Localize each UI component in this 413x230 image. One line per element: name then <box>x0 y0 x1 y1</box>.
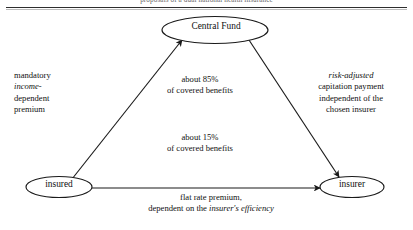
edge-label-about-15-percent: about 15% of covered benefits <box>120 132 280 155</box>
edge-label-about-85-percent: about 85% of covered benefits <box>120 74 280 97</box>
benefits-85-line-1: about 85% <box>120 74 280 85</box>
flat-rate-line-2-italic: insurer's efficiency <box>209 203 274 213</box>
premium-line-1: mandatory <box>14 70 106 81</box>
edge-label-risk-adjusted-capitation-payment: risk-adjusted capitation payment indepen… <box>292 70 410 116</box>
capitation-line-3: independent of the <box>292 93 410 104</box>
diagram-page: proposals of a dual national health insu… <box>0 0 413 230</box>
premium-line-4: premium <box>14 104 106 115</box>
capitation-line-2: capitation payment <box>292 81 410 92</box>
benefits-15-line-2: of covered benefits <box>120 143 280 154</box>
capitation-line-1: risk-adjusted <box>292 70 410 81</box>
flat-rate-line-2: dependent on the insurer's efficiency <box>100 203 322 214</box>
capitation-line-4: chosen insurer <box>292 104 410 115</box>
node-label-central-fund: Central Fund <box>166 22 266 31</box>
node-label-insurer: insurer <box>321 180 383 189</box>
node-label-insured: insured <box>28 180 90 189</box>
edge-label-mandatory-income-dependent-premium: mandatory income- dependent premium <box>14 70 106 116</box>
benefits-85-line-2: of covered benefits <box>120 85 280 96</box>
benefits-15-line-1: about 15% <box>120 132 280 143</box>
edge-label-flat-rate-premium: flat rate premium, dependent on the insu… <box>100 192 322 215</box>
flat-rate-line-1: flat rate premium, <box>100 192 322 203</box>
flat-rate-line-2-prefix: dependent on the <box>148 203 209 213</box>
premium-line-3: dependent <box>14 93 106 104</box>
premium-line-2: income- <box>14 81 106 92</box>
